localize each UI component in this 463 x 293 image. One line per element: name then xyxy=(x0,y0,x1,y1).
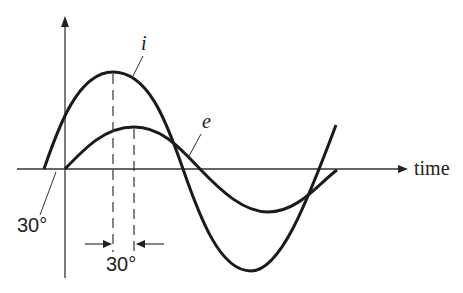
horizontal-axis-arrowhead xyxy=(398,165,408,173)
dimension-right-arrowhead xyxy=(136,240,145,248)
phase-start-label: 30° xyxy=(17,214,47,237)
phase-start-leader xyxy=(40,172,56,215)
curve-e-label: e xyxy=(202,110,211,133)
time-axis-label: time xyxy=(414,157,450,180)
curve-i xyxy=(44,72,336,271)
phase-peaks-label: 30° xyxy=(106,253,136,276)
dimension-left-arrowhead xyxy=(103,240,112,248)
phase-diagram xyxy=(0,0,463,293)
axes xyxy=(17,24,398,278)
curve-i-label: i xyxy=(141,32,147,55)
vertical-axis-arrowhead xyxy=(61,16,69,27)
label-e-leader xyxy=(188,134,201,158)
label-i-leader xyxy=(132,56,143,78)
